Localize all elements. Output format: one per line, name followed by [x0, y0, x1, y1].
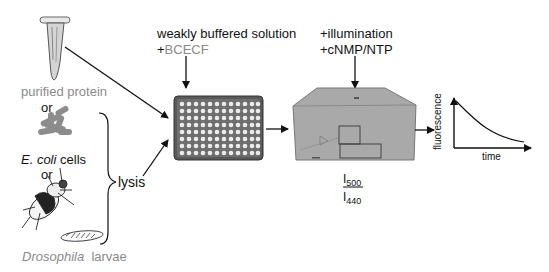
- ecoli-rest: cells: [56, 152, 86, 167]
- ecoli-italic: E. coli: [21, 152, 56, 167]
- drosophila-label: Drosophila larvae: [22, 250, 127, 263]
- or-label-2: or: [41, 168, 53, 181]
- lysis-label: lysis: [118, 175, 145, 189]
- drosophila-italic: Drosophila: [22, 249, 84, 264]
- plot-xlabel: time: [482, 151, 501, 162]
- buffer-label: weakly buffered solution: [157, 27, 296, 40]
- illumination-label: +illumination: [320, 27, 393, 40]
- cnmp-label: +cNMP/NTP: [320, 43, 393, 56]
- ecoli-label: E. coli cells: [21, 153, 86, 166]
- plot-ylabel: fluorescence: [432, 93, 443, 150]
- bcecf-dye: BCECF: [165, 42, 209, 57]
- ratio-denominator: I440: [343, 190, 361, 206]
- purified-protein-label: purified protein: [21, 85, 107, 98]
- drosophila-rest: larvae: [84, 249, 127, 264]
- bcecf-plus: +: [157, 42, 165, 57]
- or-label-1: or: [41, 101, 53, 114]
- ratio-numerator: I500: [343, 172, 361, 188]
- bcecf-label: +BCECF: [157, 43, 209, 56]
